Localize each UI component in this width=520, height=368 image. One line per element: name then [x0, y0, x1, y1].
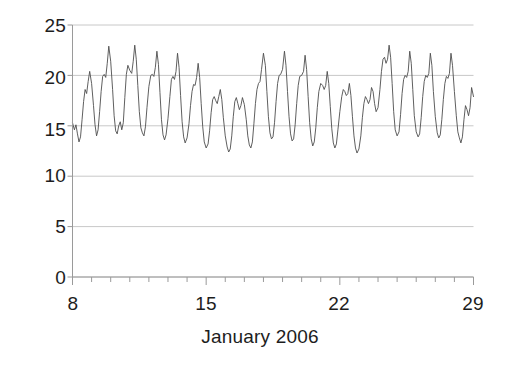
xtick-label-29: 29	[451, 294, 495, 313]
xtick-label-15: 15	[184, 294, 228, 313]
ytick-label-20: 20	[20, 68, 66, 87]
xtick-label-22: 22	[317, 294, 361, 313]
x-axis-label: January 2006	[0, 326, 520, 348]
ytick-label-15: 15	[20, 120, 66, 139]
ytick-label-0: 0	[20, 268, 66, 287]
chart-figure: 25 20 15 10 5 0 8 15 22 29 January 2006	[0, 0, 520, 368]
ytick-label-10: 10	[20, 166, 66, 185]
axis-ticks	[68, 25, 474, 285]
ytick-label-25: 25	[20, 16, 66, 35]
ytick-label-5: 5	[20, 217, 66, 236]
xtick-label-8: 8	[51, 294, 95, 313]
data-series-line	[73, 45, 474, 153]
